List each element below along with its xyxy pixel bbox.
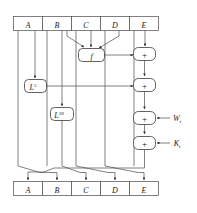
adder-1-label: +	[142, 50, 147, 60]
input-label-b: B	[55, 21, 60, 30]
adder-2: +	[134, 79, 156, 92]
input-register-row: A B C D E	[14, 17, 159, 31]
wire-d-to-f	[99, 31, 119, 49]
adder-2-label: +	[142, 81, 147, 91]
input-label-d: D	[111, 21, 118, 30]
output-register-row: A B C D E	[14, 182, 159, 196]
output-label-c: C	[83, 186, 89, 195]
adder-1: +	[134, 48, 156, 61]
rotate-left-5-box: L5	[25, 80, 47, 93]
adder-4: +	[134, 137, 156, 150]
adder-3: +	[134, 112, 156, 125]
input-label-wt: Wt	[173, 114, 182, 124]
output-label-b: B	[55, 186, 60, 195]
output-label-a: A	[25, 186, 31, 195]
wire-b-to-f	[67, 31, 84, 48]
rotate-left-30-box: L30	[51, 108, 74, 121]
diagram-canvas: A B C D E f L5 L30	[0, 0, 197, 213]
adder-3-label: +	[142, 114, 147, 124]
sha1-round-diagram: A B C D E f L5 L30	[0, 0, 197, 213]
input-label-c: C	[83, 21, 89, 30]
output-label-d: D	[111, 186, 118, 195]
input-label-e: E	[141, 21, 147, 30]
input-label-a: A	[25, 21, 31, 30]
input-label-kt: Kt	[173, 139, 181, 149]
adder-4-label: +	[142, 139, 147, 149]
wire-new-b-route	[18, 166, 57, 180]
output-label-e: E	[141, 186, 147, 195]
function-box-f: f	[79, 49, 105, 62]
